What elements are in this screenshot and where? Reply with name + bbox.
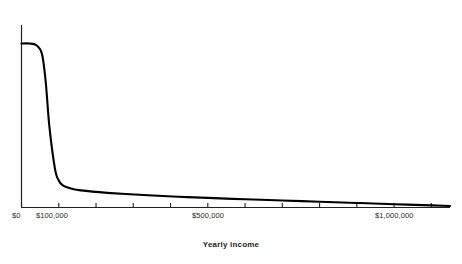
x-axis-title: Yearly income: [0, 240, 462, 249]
x-tick-label-1m: $1,000,000: [375, 211, 414, 220]
income-density-curve: [22, 43, 451, 206]
x-tick-label-0: $0: [12, 211, 21, 220]
chart-plot-area: [0, 0, 462, 264]
income-distribution-chart: $0 $100,000 $500,000 $1,000,000 Yearly i…: [0, 0, 462, 264]
x-tick-label-500k: $500,000: [192, 211, 224, 220]
x-tick-label-100k: $100,000: [36, 211, 68, 220]
